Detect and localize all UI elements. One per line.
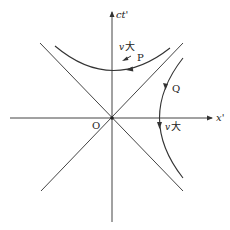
origin-label: O — [92, 120, 100, 131]
curve-q-label: Q — [172, 83, 180, 94]
x-axis-label: x' — [216, 112, 224, 123]
ct-axis-label: ct' — [116, 9, 128, 20]
spacetime-diagram: ct' x' O v 大 P Q v 大 — [0, 0, 230, 230]
p-pointer-arrow-icon — [122, 57, 129, 62]
curve-p-label: P — [137, 52, 144, 63]
q-velocity-symbol: v — [165, 122, 170, 132]
p-velocity-symbol: v — [119, 42, 124, 52]
q-direction-arrow-lower-icon — [157, 122, 162, 129]
q-velocity-large: 大 — [171, 120, 181, 132]
p-velocity-large: 大 — [125, 40, 135, 52]
origin-point — [110, 116, 114, 120]
q-direction-arrow-upper-icon — [163, 83, 168, 90]
